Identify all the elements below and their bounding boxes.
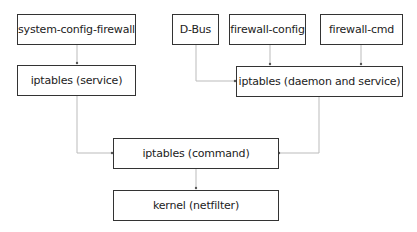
edge-iptables-daemon-to-command [279, 96, 319, 153]
arrowhead-icon [195, 187, 197, 189]
edge-dbus-to-iptables-daemon [196, 44, 235, 81]
node-dbus: D-Bus [172, 14, 219, 45]
node-label: iptables (daemon and service) [239, 75, 401, 88]
node-label: kernel (netfilter) [153, 199, 239, 212]
arrowhead-icon [269, 63, 271, 65]
node-firewall-config: firewall-config [229, 14, 306, 45]
node-kernel-netfilter: kernel (netfilter) [113, 190, 279, 221]
node-label: firewall-config [230, 23, 304, 36]
arrowhead-icon [360, 63, 362, 65]
node-iptables-service: iptables (service) [17, 65, 136, 96]
node-iptables-daemon-and-service: iptables (daemon and service) [236, 66, 403, 97]
edge-iptables-service-to-command [77, 95, 112, 153]
node-system-config-firewall: system-config-firewall [17, 14, 136, 45]
node-firewall-cmd: firewall-cmd [320, 14, 403, 45]
arrowhead-icon [76, 62, 78, 64]
node-label: system-config-firewall [18, 23, 135, 36]
node-label: iptables (command) [142, 147, 249, 160]
node-iptables-command: iptables (command) [113, 138, 279, 169]
node-label: D-Bus [180, 23, 211, 36]
node-label: firewall-cmd [329, 23, 394, 36]
node-label: iptables (service) [31, 74, 123, 87]
